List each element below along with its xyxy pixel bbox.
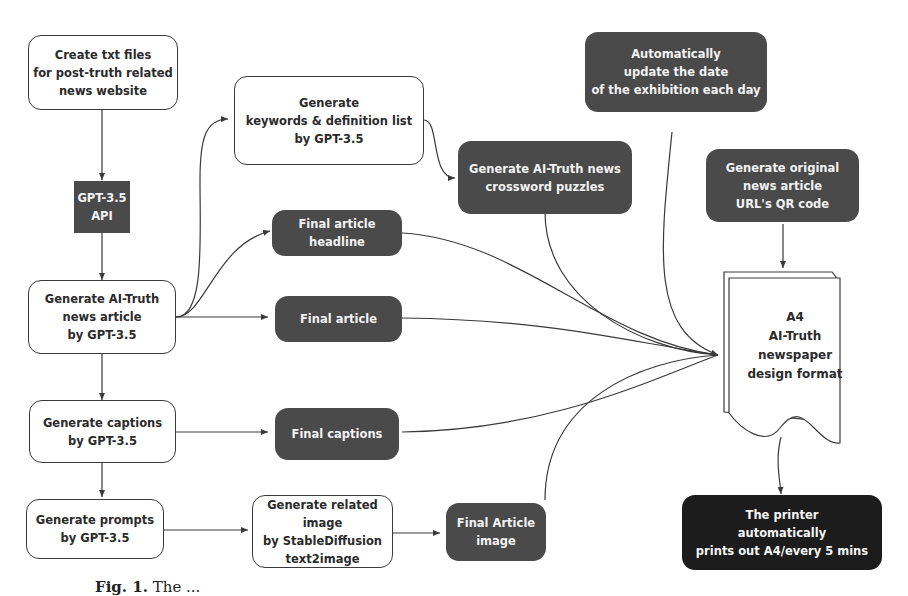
caption-prefix: Fig. 1. xyxy=(95,578,148,596)
caption-text: The ... xyxy=(153,578,201,596)
a4-format-node: A4 AI-Truth newspaper design format xyxy=(730,308,860,384)
figure-caption: Fig. 1. The ... xyxy=(95,578,200,596)
generate-captions-node: Generate captions by GPT-3.5 xyxy=(29,400,176,463)
generate-image-node: Generate related image by StableDiffusio… xyxy=(252,495,393,568)
crossword-node: Generate AI-Truth news crossword puzzles xyxy=(458,141,632,214)
printer-node: The printer automatically prints out A4/… xyxy=(682,495,882,570)
update-date-node: Automatically update the date of the exh… xyxy=(585,32,767,112)
qr-code-node: Generate original news article URL's QR … xyxy=(706,149,859,222)
final-captions-node: Final captions xyxy=(275,408,399,460)
create-txt-files-node: Create txt files for post-truth related … xyxy=(28,35,178,110)
final-article-node: Final article xyxy=(275,296,402,342)
generate-article-node: Generate AI-Truth news article by GPT-3.… xyxy=(28,280,176,354)
final-image-node: Final Article image xyxy=(446,503,546,561)
generate-keywords-node: Generate keywords & definition list by G… xyxy=(234,76,424,165)
gpt-api-node: GPT-3.5 API xyxy=(74,181,130,233)
final-headline-node: Final article headline xyxy=(272,210,402,256)
generate-prompts-node: Generate prompts by GPT-3.5 xyxy=(26,499,164,559)
